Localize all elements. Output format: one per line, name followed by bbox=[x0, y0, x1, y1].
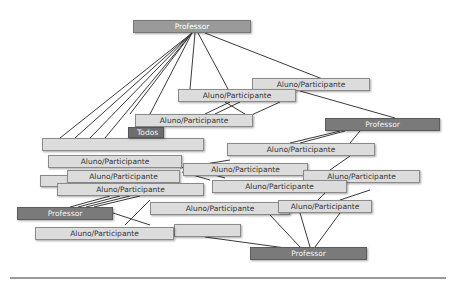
aluno-participante-node[interactable]: Aluno/Participante bbox=[57, 183, 204, 196]
edge-line bbox=[290, 131, 340, 143]
node-label: Aluno/Participante bbox=[277, 80, 346, 89]
node-label: Aluno/Participante bbox=[186, 204, 255, 213]
aluno-participante-node[interactable]: Aluno/Participante bbox=[183, 163, 308, 176]
node-label: Professor bbox=[291, 249, 326, 258]
aluno-participante-node[interactable]: Aluno/Participante bbox=[35, 227, 174, 240]
edge-line bbox=[270, 215, 300, 247]
aluno-participante-node[interactable]: Aluno/Participante bbox=[227, 143, 375, 156]
node-label: Aluno/Participante bbox=[160, 116, 229, 125]
node-label: Aluno/Participante bbox=[267, 145, 336, 154]
edge-line bbox=[198, 33, 228, 89]
aluno-participante-node[interactable]: Aluno/Participante bbox=[48, 155, 182, 168]
todos-group-node[interactable]: Todos bbox=[128, 127, 164, 138]
node-label: Aluno/Participante bbox=[81, 157, 150, 166]
node-label: Professor bbox=[48, 209, 83, 218]
node-label: Professor bbox=[365, 120, 400, 129]
professor-node[interactable]: Professor bbox=[250, 247, 367, 260]
edge-line bbox=[300, 91, 395, 118]
edge-line bbox=[205, 102, 230, 114]
edge-line bbox=[350, 131, 360, 143]
aluno-participante-node[interactable]: Aluno/Participante bbox=[135, 114, 253, 127]
professor-node[interactable]: Professor bbox=[325, 118, 440, 131]
edge-line bbox=[190, 33, 195, 89]
edge-line bbox=[330, 156, 350, 170]
aluno-participante-node[interactable] bbox=[42, 138, 204, 151]
node-label: Aluno/Participante bbox=[70, 229, 139, 238]
professor-node[interactable]: Professor bbox=[133, 20, 251, 33]
edge-line bbox=[205, 33, 325, 80]
node-label: Aluno/Participante bbox=[96, 185, 165, 194]
node-label: Aluno/Participante bbox=[291, 202, 360, 211]
aluno-participante-node[interactable] bbox=[174, 224, 241, 237]
edge-line bbox=[300, 131, 345, 143]
aluno-participante-node[interactable]: Aluno/Participante bbox=[150, 202, 290, 215]
aluno-participante-node[interactable]: Aluno/Participante bbox=[178, 89, 296, 102]
aluno-participante-node[interactable]: Aluno/Participante bbox=[278, 200, 372, 213]
node-label: Todos bbox=[137, 128, 158, 137]
node-label: Aluno/Participante bbox=[203, 91, 272, 100]
node-label: Professor bbox=[175, 22, 210, 31]
aluno-participante-node[interactable]: Aluno/Participante bbox=[67, 170, 180, 183]
professor-node[interactable]: Professor bbox=[17, 207, 113, 220]
node-label: Aluno/Participante bbox=[245, 182, 314, 191]
node-label: Aluno/Participante bbox=[89, 172, 158, 181]
bottom-divider bbox=[10, 277, 446, 279]
node-label: Aluno/Participante bbox=[211, 165, 280, 174]
aluno-participante-node[interactable]: Aluno/Participante bbox=[212, 180, 347, 193]
edge-line bbox=[315, 213, 340, 247]
edge-line bbox=[70, 196, 110, 207]
edge-line bbox=[86, 196, 130, 207]
edge-line bbox=[300, 213, 310, 247]
